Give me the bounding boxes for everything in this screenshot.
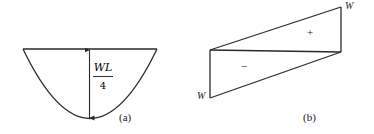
fraction-numerator: WL	[93, 61, 113, 77]
label-w-bottom-left: W	[197, 91, 205, 101]
caption-b: (b)	[303, 112, 316, 123]
fraction-denominator: 4	[93, 77, 113, 91]
panel-a-diagram	[23, 49, 157, 119]
caption-a: (a)	[119, 112, 131, 123]
negative-sign: −	[241, 61, 247, 72]
label-w-top-right: W	[345, 1, 353, 11]
bottom-diagonal	[210, 52, 341, 98]
positive-sign: +	[307, 27, 313, 38]
diagram-canvas	[0, 0, 374, 134]
panel-b-diagram	[210, 7, 341, 98]
wl-over-4-label: WL 4	[93, 61, 113, 91]
axis-line-b	[210, 50, 341, 52]
top-diagonal	[210, 7, 341, 50]
